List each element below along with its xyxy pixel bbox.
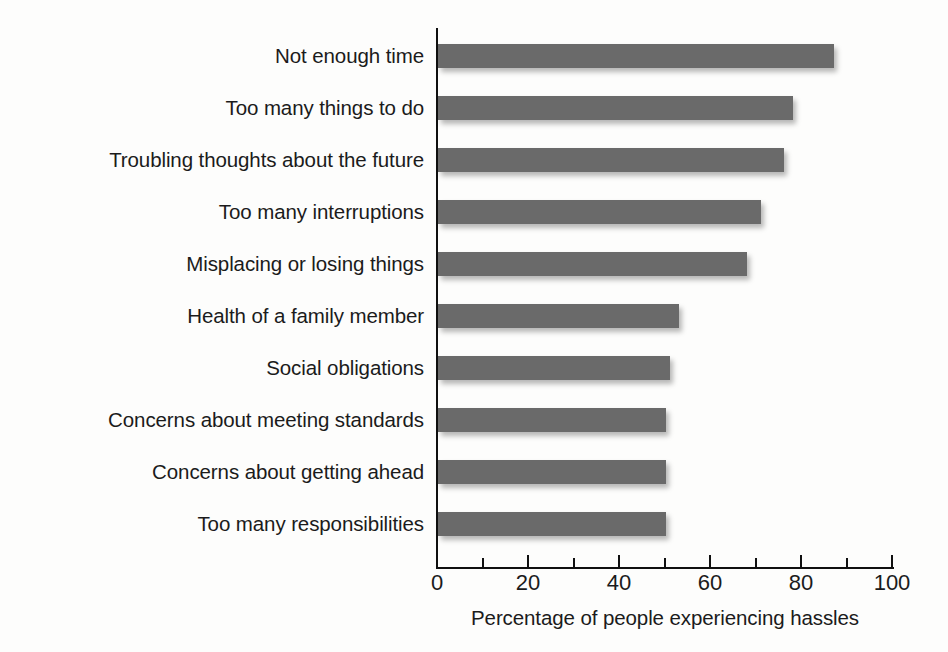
bar-row: Too many responsibilities [0,512,948,536]
bar-category-label: Too many things to do [226,98,437,119]
bar-row: Health of a family member [0,304,948,328]
x-tick-label: 40 [607,572,631,594]
bar [438,252,747,276]
bar-row: Concerns about meeting standards [0,408,948,432]
bar-row: Troubling thoughts about the future [0,148,948,172]
bar [438,200,761,224]
bar [438,96,793,120]
bar [438,44,834,68]
bar-row: Too many interruptions [0,200,948,224]
bar [438,512,666,536]
bar-row: Misplacing or losing things [0,252,948,276]
bar-category-label: Not enough time [275,46,437,67]
x-tick-minor [664,558,666,568]
bar-row: Concerns about getting ahead [0,460,948,484]
x-tick-minor [846,558,848,568]
bar-category-label: Social obligations [266,358,437,379]
bar-category-label: Health of a family member [187,306,437,327]
bar-row: Not enough time [0,44,948,68]
x-tick-major [527,555,529,568]
bar [438,148,784,172]
bar [438,408,666,432]
x-tick-label: 80 [789,572,813,594]
x-tick-major [891,555,893,568]
x-axis-title: Percentage of people experiencing hassle… [436,608,894,629]
x-tick-minor [573,558,575,568]
x-tick-minor [755,558,757,568]
x-tick-major [618,555,620,568]
bar-chart: Not enough timeToo many things to doTrou… [0,0,948,652]
bar-category-label: Troubling thoughts about the future [109,150,437,171]
bar-row: Too many things to do [0,96,948,120]
bar-row: Social obligations [0,356,948,380]
plot-area: Not enough timeToo many things to doTrou… [0,0,948,652]
bar [438,304,679,328]
bar [438,356,670,380]
x-tick-label: 20 [516,572,540,594]
bar-category-label: Too many responsibilities [197,514,437,535]
bar-category-label: Misplacing or losing things [186,254,437,275]
x-tick-major [709,555,711,568]
x-tick-minor [482,558,484,568]
x-tick-major [436,555,438,568]
x-tick-label: 100 [874,572,911,594]
bar-category-label: Concerns about getting ahead [152,462,437,483]
bar-category-label: Concerns about meeting standards [108,410,437,431]
bar [438,460,666,484]
x-tick-label: 0 [431,572,443,594]
x-tick-label: 60 [698,572,722,594]
bar-category-label: Too many interruptions [219,202,437,223]
x-tick-major [800,555,802,568]
